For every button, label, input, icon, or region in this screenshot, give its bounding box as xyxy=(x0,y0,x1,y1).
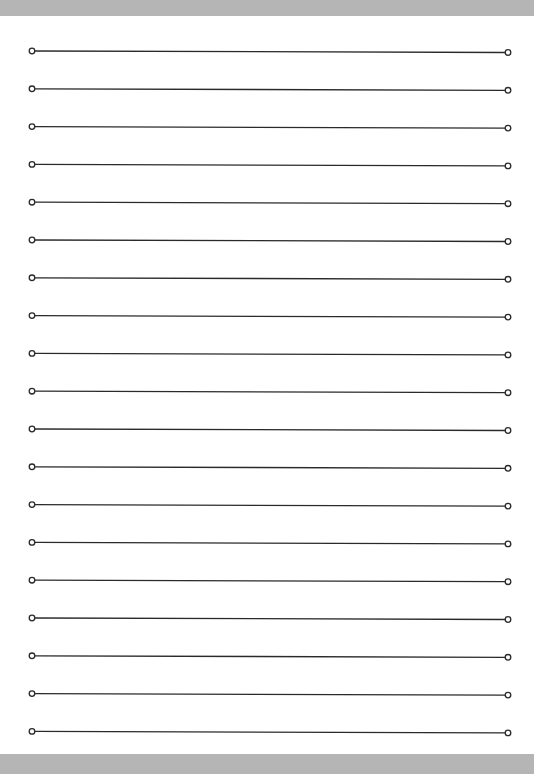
left-endpoint-circle-icon xyxy=(29,540,35,546)
right-endpoint-circle-icon xyxy=(505,730,511,736)
right-endpoint-circle-icon xyxy=(505,88,511,94)
ruled-line xyxy=(29,464,511,471)
ruled-line xyxy=(29,124,511,131)
right-endpoint-circle-icon xyxy=(505,390,511,396)
right-endpoint-circle-icon xyxy=(505,617,511,623)
left-endpoint-circle-icon xyxy=(29,577,35,583)
right-endpoint-circle-icon xyxy=(505,125,511,131)
left-endpoint-circle-icon xyxy=(29,124,35,130)
left-endpoint-circle-icon xyxy=(29,653,35,659)
right-endpoint-circle-icon xyxy=(505,239,511,245)
ruled-line xyxy=(29,199,511,206)
left-endpoint-circle-icon xyxy=(29,313,35,319)
left-endpoint-circle-icon xyxy=(29,237,35,243)
ruled-line xyxy=(29,237,511,244)
left-endpoint-circle-icon xyxy=(29,199,35,205)
left-endpoint-circle-icon xyxy=(29,729,35,735)
left-endpoint-circle-icon xyxy=(29,615,35,621)
ruled-line xyxy=(29,729,511,736)
ruled-lines xyxy=(0,0,534,774)
left-endpoint-circle-icon xyxy=(29,275,35,281)
ruled-line xyxy=(29,615,511,622)
left-endpoint-circle-icon xyxy=(29,426,35,432)
right-endpoint-circle-icon xyxy=(505,201,511,207)
ruled-line xyxy=(29,540,511,547)
ruled-line xyxy=(29,162,511,169)
ruled-line xyxy=(29,313,511,320)
ruled-line xyxy=(29,653,511,660)
left-endpoint-circle-icon xyxy=(29,162,35,168)
right-endpoint-circle-icon xyxy=(505,655,511,661)
ruled-line xyxy=(29,502,511,509)
ruled-line xyxy=(29,48,511,55)
left-endpoint-circle-icon xyxy=(29,502,35,508)
left-endpoint-circle-icon xyxy=(29,691,35,697)
ruled-line xyxy=(29,388,511,395)
right-endpoint-circle-icon xyxy=(505,352,511,358)
right-endpoint-circle-icon xyxy=(505,579,511,585)
ruled-line xyxy=(29,86,511,93)
right-endpoint-circle-icon xyxy=(505,314,511,320)
right-endpoint-circle-icon xyxy=(505,277,511,283)
left-endpoint-circle-icon xyxy=(29,86,35,92)
ruled-line xyxy=(29,691,511,698)
left-endpoint-circle-icon xyxy=(29,48,35,54)
right-endpoint-circle-icon xyxy=(505,692,511,698)
right-endpoint-circle-icon xyxy=(505,503,511,509)
right-endpoint-circle-icon xyxy=(505,50,511,56)
right-endpoint-circle-icon xyxy=(505,428,511,434)
right-endpoint-circle-icon xyxy=(505,541,511,547)
ruled-line xyxy=(29,577,511,584)
ruled-line xyxy=(29,426,511,433)
left-endpoint-circle-icon xyxy=(29,351,35,357)
right-endpoint-circle-icon xyxy=(505,466,511,472)
left-endpoint-circle-icon xyxy=(29,464,35,470)
ruled-line xyxy=(29,351,511,358)
left-endpoint-circle-icon xyxy=(29,388,35,394)
ruled-line xyxy=(29,275,511,282)
right-endpoint-circle-icon xyxy=(505,163,511,169)
